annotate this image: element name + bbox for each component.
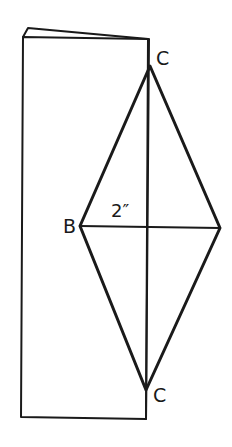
vertex-label-bottom-c: C [153, 386, 166, 405]
vertex-label-b: B [63, 217, 76, 236]
paper-outline [21, 37, 148, 419]
dimension-label: 2″ [111, 202, 129, 220]
folded-paper-diagram [0, 0, 232, 447]
vertex-label-top-c: C [156, 49, 169, 68]
horizontal-diagonal [80, 226, 220, 228]
